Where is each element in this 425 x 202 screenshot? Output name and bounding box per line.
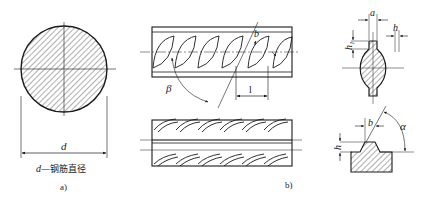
- figure-b-side-view: b): [140, 119, 302, 190]
- rib-profile-section: [351, 142, 392, 172]
- side-ribs-top: [154, 119, 288, 132]
- figure-d-rib-profile: h b α: [332, 106, 414, 172]
- beta-label: β: [165, 82, 172, 94]
- b-label: b: [254, 28, 259, 39]
- d-b-label: b: [368, 117, 373, 128]
- pitch-label: l: [249, 84, 252, 95]
- diameter-label: d: [61, 140, 67, 152]
- beta-angle-arc: [172, 58, 208, 102]
- rib-inclination-line: [218, 22, 258, 108]
- figure-a-round-bar: d d—钢筋直径 a): [14, 22, 116, 192]
- figure-a-caption: a): [60, 182, 67, 192]
- figure-c-rib-cross-section: a h h₁: [342, 7, 408, 104]
- alpha-label: α: [400, 120, 406, 132]
- h1-label: h₁: [343, 42, 354, 50]
- figure-a-legend: d—钢筋直径: [36, 163, 86, 174]
- side-ribs-bottom: [154, 154, 288, 166]
- a-label: a: [370, 7, 375, 18]
- figure-b-crescent-rib-bar: β b l: [140, 22, 300, 108]
- rebar-diagram: d d—钢筋直径 a) β b l: [0, 0, 425, 202]
- figure-b-caption: b): [285, 180, 293, 190]
- d-h-label: h: [332, 145, 343, 150]
- h-label: h: [393, 22, 398, 33]
